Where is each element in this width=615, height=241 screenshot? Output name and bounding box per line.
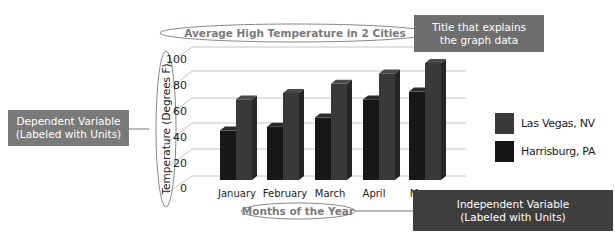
legend-swatch-las-vegas <box>495 113 514 134</box>
independent-callout-line2: (Labeled with Units) <box>460 211 565 224</box>
x-tick-label: March <box>315 188 345 199</box>
independent-callout-line1: Independent Variable <box>457 198 569 211</box>
legend-label-harrisburg: Harrisburg, PA <box>521 145 595 158</box>
dependent-callout-line2: (Labeled with Units) <box>16 128 121 141</box>
chart-legend: Las Vegas, NV Harrisburg, PA <box>495 112 595 168</box>
x-axis-label: Months of the Year <box>242 205 355 217</box>
bar-las-vegas-march <box>331 80 352 180</box>
bar-las-vegas-april <box>379 69 400 180</box>
bar-series-group <box>220 59 446 180</box>
y-tick-label: 80 <box>173 79 187 92</box>
y-axis-label: Temperature (Degrees F) <box>160 63 172 195</box>
legend-swatch-harrisburg <box>495 141 514 162</box>
bar-las-vegas-january <box>236 95 257 180</box>
y-tick-label: 20 <box>173 157 187 170</box>
title-callout-line1: Title that explains <box>432 21 526 34</box>
x-axis-ticks: JanuaryFebruaryMarchAprilMay <box>217 188 430 199</box>
bar-las-vegas-february <box>283 89 304 180</box>
y-tick-label: 60 <box>173 105 187 118</box>
legend-label-las-vegas: Las Vegas, NV <box>521 117 595 130</box>
title-callout-box: Title that explains the graph data <box>414 15 544 52</box>
x-tick-label: January <box>217 188 256 199</box>
independent-variable-callout-box: Independent Variable (Labeled with Units… <box>413 190 613 231</box>
x-tick-label: February <box>263 188 307 199</box>
y-tick-label: 0 <box>180 182 187 195</box>
annotated-bar-chart-figure: Average High Temperature in 2 Cities Mon… <box>0 0 615 241</box>
legend-item-harrisburg: Harrisburg, PA <box>495 140 595 163</box>
title-callout-line2: the graph data <box>440 34 518 47</box>
bar-las-vegas-may <box>425 59 446 180</box>
x-tick-label: April <box>363 188 386 199</box>
y-tick-label: 40 <box>173 131 187 144</box>
legend-item-las-vegas: Las Vegas, NV <box>495 112 595 135</box>
y-tick-label: 100 <box>166 53 187 66</box>
dependent-variable-callout-box: Dependent Variable (Labeled with Units) <box>8 110 129 146</box>
chart-title: Average High Temperature in 2 Cities <box>184 27 405 39</box>
dependent-callout-line1: Dependent Variable <box>16 115 120 128</box>
